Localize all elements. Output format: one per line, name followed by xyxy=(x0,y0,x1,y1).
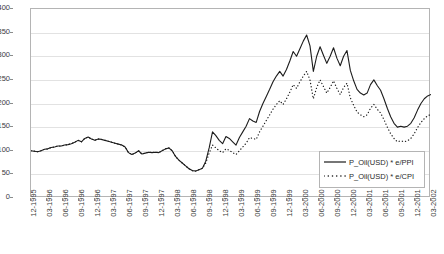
x-axis-tick: 09-2001 xyxy=(394,198,403,248)
legend-key-solid-icon xyxy=(324,158,346,166)
x-axis-tick: 06-1997 xyxy=(122,198,131,248)
plot-area: P_Oil(USD) * e/PPI P_Oil(USD) * e/CPI xyxy=(30,8,430,197)
x-axis-tick: 12-1995 xyxy=(26,198,35,248)
x-axis-tick: 03-2001 xyxy=(362,198,371,248)
x-axis-tick: 12-1996 xyxy=(90,198,99,248)
y-axis-tick-label: 200 xyxy=(0,99,10,107)
x-axis: 12-199503-199606-199609-199612-199603-19… xyxy=(30,198,430,250)
x-axis-tick-label: 12-1998 xyxy=(222,189,230,217)
x-axis-tick: 03-1996 xyxy=(42,198,51,248)
x-axis-tick-label: 06-1999 xyxy=(254,189,262,217)
x-axis-tick: 12-2001 xyxy=(410,198,419,248)
y-axis-tick-label: 0 xyxy=(0,193,10,201)
y-axis-tick-mark xyxy=(10,8,13,9)
x-axis-tick: 03-2000 xyxy=(298,198,307,248)
x-axis-tick-label: 12-1995 xyxy=(30,189,38,217)
legend: P_Oil(USD) * e/PPI P_Oil(USD) * e/CPI xyxy=(319,151,425,188)
x-axis-tick-label: 06-2000 xyxy=(318,189,326,217)
x-axis-tick-label: 12-2001 xyxy=(414,189,422,217)
x-axis-tick-label: 12-1996 xyxy=(94,189,102,217)
y-axis-tick-mark xyxy=(10,126,13,127)
x-axis-tick-label: 03-1999 xyxy=(238,189,246,217)
x-axis-tick-label: 09-2001 xyxy=(398,189,406,217)
x-axis-tick: 06-2001 xyxy=(378,198,387,248)
x-axis-tick-label: 12-1999 xyxy=(286,189,294,217)
x-axis-tick: 06-1999 xyxy=(250,198,259,248)
y-axis-tick-mark xyxy=(10,197,13,198)
x-axis-tick-label: 12-2000 xyxy=(350,189,358,217)
x-axis-tick-label: 06-2001 xyxy=(382,189,390,217)
x-axis-tick-label: 09-2000 xyxy=(334,189,342,217)
y-axis-tick-label: 50 xyxy=(0,169,10,177)
x-axis-tick-label: 06-1997 xyxy=(126,189,134,217)
y-axis-tick-mark xyxy=(10,103,13,104)
y-axis-tick-label: 350 xyxy=(0,28,10,36)
x-axis-tick: 12-1997 xyxy=(154,198,163,248)
legend-label-ppi: P_Oil(USD) * e/PPI xyxy=(349,158,414,167)
x-axis-tick: 06-1996 xyxy=(58,198,67,248)
legend-label-cpi: P_Oil(USD) * e/CPI xyxy=(349,172,414,181)
x-axis-tick: 09-1999 xyxy=(266,198,275,248)
x-axis-tick: 03-1997 xyxy=(106,198,115,248)
x-axis-tick-label: 09-1998 xyxy=(206,189,214,217)
y-axis-tick-mark xyxy=(10,55,13,56)
x-axis-tick: 12-1998 xyxy=(218,198,227,248)
chart-container: 400350300250200150100500 P_Oil(USD) * e/… xyxy=(0,0,444,254)
y-axis-tick-label: 100 xyxy=(0,146,10,154)
x-axis-tick: 09-1997 xyxy=(138,198,147,248)
x-axis-tick-label: 09-1999 xyxy=(270,189,278,217)
legend-item-ppi: P_Oil(USD) * e/PPI xyxy=(324,155,420,169)
y-axis-tick-label: 150 xyxy=(0,122,10,130)
x-axis-tick-label: 09-1997 xyxy=(142,189,150,217)
x-axis-tick: 06-2000 xyxy=(314,198,323,248)
x-axis-tick-label: 06-1998 xyxy=(190,189,198,217)
x-axis-tick: 09-1996 xyxy=(74,198,83,248)
y-axis-tick-mark xyxy=(10,32,13,33)
x-axis-tick-label: 03-2001 xyxy=(366,189,374,217)
x-axis-tick: 12-2000 xyxy=(346,198,355,248)
y-axis-tick-label: 300 xyxy=(0,51,10,59)
x-axis-tick-label: 03-2002 xyxy=(430,189,438,217)
x-axis-tick-label: 12-1997 xyxy=(158,189,166,217)
x-axis-tick: 09-2000 xyxy=(330,198,339,248)
y-axis-tick-mark xyxy=(10,79,13,80)
x-axis-tick-label: 03-1998 xyxy=(174,189,182,217)
x-axis-tick-label: 03-1996 xyxy=(46,189,54,217)
legend-item-cpi: P_Oil(USD) * e/CPI xyxy=(324,169,420,183)
x-axis-tick: 03-1998 xyxy=(170,198,179,248)
x-axis-tick: 06-1998 xyxy=(186,198,195,248)
legend-key-dotted-icon xyxy=(324,172,346,180)
x-axis-tick: 03-2002 xyxy=(426,198,435,248)
x-axis-tick-label: 03-1997 xyxy=(110,189,118,217)
y-axis-tick-label: 250 xyxy=(0,75,10,83)
x-axis-tick-label: 06-1996 xyxy=(62,189,70,217)
x-axis-tick-label: 03-2000 xyxy=(302,189,310,217)
y-axis-tick-mark xyxy=(10,150,13,151)
y-axis-tick-label: 400 xyxy=(0,4,10,12)
x-axis-tick: 12-1999 xyxy=(282,198,291,248)
x-axis-tick-label: 09-1996 xyxy=(78,189,86,217)
x-axis-tick: 09-1998 xyxy=(202,198,211,248)
x-axis-tick: 03-1999 xyxy=(234,198,243,248)
y-axis-tick-mark xyxy=(10,173,13,174)
